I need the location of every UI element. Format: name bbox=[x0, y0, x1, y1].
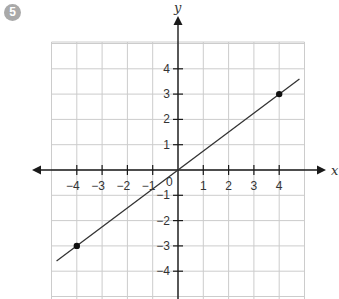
y-tick-label: −2 bbox=[156, 214, 170, 228]
x-tick-label: 4 bbox=[276, 179, 283, 193]
data-point bbox=[74, 243, 80, 249]
coordinate-plane: xy−4−3−2−11234−4−3−2−112340 bbox=[0, 0, 339, 299]
y-tick-label: 4 bbox=[163, 62, 170, 76]
y-axis-up-arrow-icon bbox=[174, 16, 183, 25]
x-tick-label: 3 bbox=[251, 179, 258, 193]
x-axis-left-arrow-icon bbox=[32, 166, 41, 175]
y-tick-label: −4 bbox=[156, 264, 170, 278]
y-tick-label: 3 bbox=[163, 87, 170, 101]
x-axis-right-arrow-icon bbox=[317, 166, 326, 175]
x-tick-label: −3 bbox=[91, 179, 105, 193]
x-tick-label: 2 bbox=[225, 179, 232, 193]
y-tick-label: 2 bbox=[163, 112, 170, 126]
x-tick-label: −4 bbox=[66, 179, 80, 193]
data-point bbox=[276, 91, 282, 97]
y-tick-label: 1 bbox=[163, 138, 170, 152]
x-axis-label: x bbox=[331, 163, 339, 178]
x-tick-label: −1 bbox=[142, 179, 156, 193]
y-tick-label: −1 bbox=[156, 188, 170, 202]
y-tick-label: −3 bbox=[156, 239, 170, 253]
x-tick-label: −2 bbox=[117, 179, 131, 193]
x-tick-label: 1 bbox=[200, 179, 207, 193]
y-axis-label: y bbox=[173, 0, 182, 15]
